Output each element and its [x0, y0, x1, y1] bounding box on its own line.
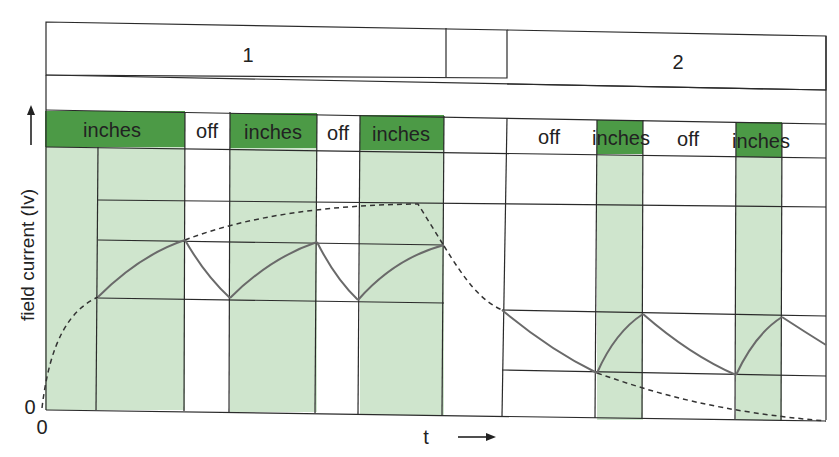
phase-label: inches	[83, 119, 141, 141]
phase-label: inches	[244, 121, 302, 143]
phase-label: off	[677, 128, 699, 150]
y-origin-label: 0	[24, 396, 35, 418]
phase-label: off	[538, 126, 560, 148]
section-label-2: 2	[672, 51, 683, 73]
x-axis-label: t	[423, 426, 429, 448]
x-origin-label: 0	[36, 416, 47, 438]
field-current-curve	[98, 240, 826, 375]
x-axis-arrow-icon	[458, 433, 496, 441]
phase-label: inches	[592, 127, 650, 149]
on-shading	[45, 147, 782, 420]
phase-label: inches	[372, 123, 430, 145]
section-label-1: 1	[242, 44, 253, 66]
field-current-diagram: 1 2 inches off inches off inches off inc…	[0, 0, 839, 457]
y-axis-label: field current (Iv)	[17, 189, 38, 321]
phase-label: off	[196, 120, 218, 142]
phase-label: inches	[732, 130, 790, 152]
y-axis-arrow-icon	[27, 105, 35, 145]
phase-label: off	[327, 122, 349, 144]
